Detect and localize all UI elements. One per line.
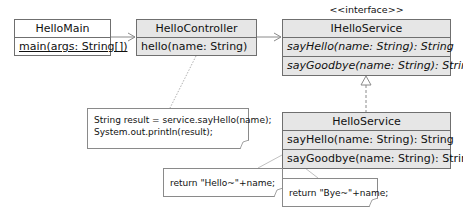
operation-say-goodbye: sayGoodbye(name: String): String	[283, 149, 450, 168]
interface-stereotype: <<interface>>	[282, 4, 451, 15]
operation-main: main(args: String[])	[15, 38, 110, 56]
note-anchor-saygoodbye	[305, 168, 318, 178]
note-line: String result = service.sayHello(name);	[94, 114, 242, 126]
note-fold-icon	[240, 140, 249, 149]
class-name: HelloController	[137, 20, 256, 38]
note-say-goodbye[interactable]: return "Bye~"+name;	[282, 178, 378, 207]
class-hello-main[interactable]: HelloMain main(args: String[])	[14, 19, 111, 56]
class-hello-controller[interactable]: HelloController hello(name: String)	[136, 19, 257, 56]
note-line: System.out.println(result);	[94, 126, 242, 138]
note-controller[interactable]: String result = service.sayHello(name); …	[87, 108, 249, 149]
hollow-triangle-icon	[361, 76, 371, 85]
class-name: HelloService	[283, 113, 450, 131]
class-ihello-service[interactable]: IHelloService sayHello(name: String): St…	[282, 19, 451, 76]
class-name: HelloMain	[15, 20, 110, 38]
note-anchor-controller	[170, 56, 196, 108]
operation-say-hello: sayHello(name: String): String	[283, 38, 450, 56]
class-name: IHelloService	[283, 20, 450, 38]
operation-hello: hello(name: String)	[137, 38, 256, 56]
operation-say-goodbye: sayGoodbye(name: String): String	[283, 56, 450, 75]
note-fold-icon	[369, 198, 378, 207]
note-line: return "Hello~"+name;	[170, 177, 276, 189]
class-hello-service[interactable]: HelloService sayHello(name: String): Str…	[282, 112, 451, 169]
note-line: return "Bye~"+name;	[289, 187, 371, 199]
operation-say-hello: sayHello(name: String): String	[283, 131, 450, 149]
note-say-hello[interactable]: return "Hello~"+name;	[163, 168, 283, 197]
